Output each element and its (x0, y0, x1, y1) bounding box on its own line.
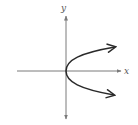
y-axis-label: y (60, 3, 67, 13)
parabola-upper-branch (66, 47, 115, 71)
x-axis-label: x (124, 66, 129, 76)
parabola-graph: y x (0, 0, 138, 125)
coordinate-plane: y x (0, 0, 138, 125)
parabola-lower-branch (66, 71, 114, 95)
